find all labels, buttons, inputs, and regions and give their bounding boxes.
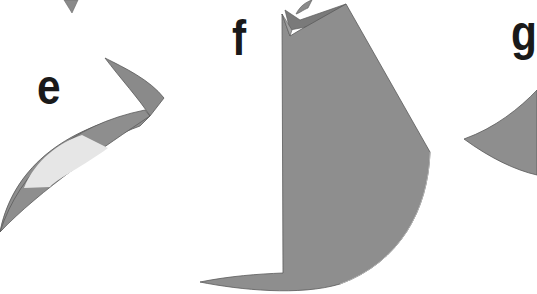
step-g-figure <box>464 90 537 175</box>
origami-diagram: e f g <box>0 0 537 294</box>
step-d-remnant-tip <box>64 0 78 13</box>
diagram-canvas <box>0 0 537 294</box>
step-label-e: e <box>37 62 61 112</box>
step-e-figure <box>0 58 164 232</box>
step-label-g: g <box>511 8 537 58</box>
step-label-f: f <box>232 13 246 63</box>
